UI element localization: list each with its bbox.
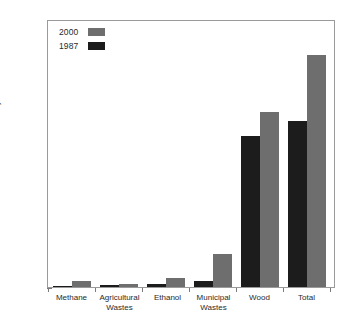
x-axis-label-total: Total (281, 293, 332, 303)
legend-item-1987: 1987 (59, 40, 105, 52)
x-tick (95, 288, 96, 292)
bar-group-wood (238, 20, 283, 287)
bar-chart-figure: Exajoules/Year 0 1 2 3 4 5 (0, 0, 342, 320)
bar-agricultural-wastes-1987 (100, 285, 119, 287)
x-tick (142, 288, 143, 292)
x-tick (48, 288, 49, 292)
x-tick (189, 288, 190, 292)
bar-total-1987 (288, 121, 307, 287)
bar-group-ethanol (144, 20, 189, 287)
x-axis-label-municipal-wastes: Municipal Wastes (187, 293, 240, 312)
bar-wood-1987 (241, 136, 260, 287)
x-axis-label-agricultural-wastes: Agricultural Wastes (91, 293, 148, 312)
legend-item-2000: 2000 (59, 26, 105, 38)
bar-ethanol-1987 (147, 284, 166, 287)
x-tick (283, 288, 284, 292)
y-axis-title: Exajoules/Year (0, 0, 1, 118)
bar-municipal-wastes-1987 (194, 281, 213, 287)
legend-swatch-2000 (88, 28, 105, 36)
bar-group-agricultural-wastes (97, 20, 142, 287)
x-axis-label-wood: Wood (234, 293, 285, 303)
bar-ethanol-2000 (166, 278, 185, 287)
x-axis-label-ethanol: Ethanol (142, 293, 193, 303)
x-tick (330, 288, 331, 292)
x-axis-label-methane: Methane (46, 293, 97, 303)
bar-total-2000 (307, 55, 326, 287)
bar-wood-2000 (260, 112, 279, 287)
legend-label-1987: 1987 (59, 41, 85, 51)
bar-group-methane (50, 20, 95, 287)
bars-layer (48, 20, 334, 287)
legend-label-2000: 2000 (59, 27, 85, 37)
bar-methane-2000 (72, 281, 91, 287)
legend-swatch-1987 (88, 42, 105, 50)
x-tick (236, 288, 237, 292)
bar-agricultural-wastes-2000 (119, 284, 138, 287)
legend: 2000 1987 (59, 26, 105, 54)
bar-group-total (285, 20, 330, 287)
bar-group-municipal-wastes (191, 20, 236, 287)
bar-municipal-wastes-2000 (213, 254, 232, 287)
bar-methane-1987 (53, 286, 72, 287)
